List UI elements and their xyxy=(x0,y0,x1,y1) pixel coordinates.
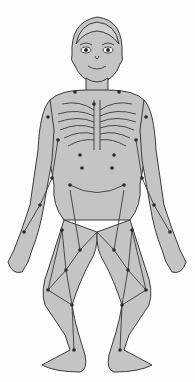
left-leg xyxy=(42,220,97,372)
left-arm xyxy=(8,100,54,273)
body-illustration xyxy=(0,0,195,382)
torso xyxy=(46,90,147,220)
figure-svg xyxy=(0,0,195,382)
right-arm xyxy=(140,100,186,273)
right-leg xyxy=(97,220,152,372)
